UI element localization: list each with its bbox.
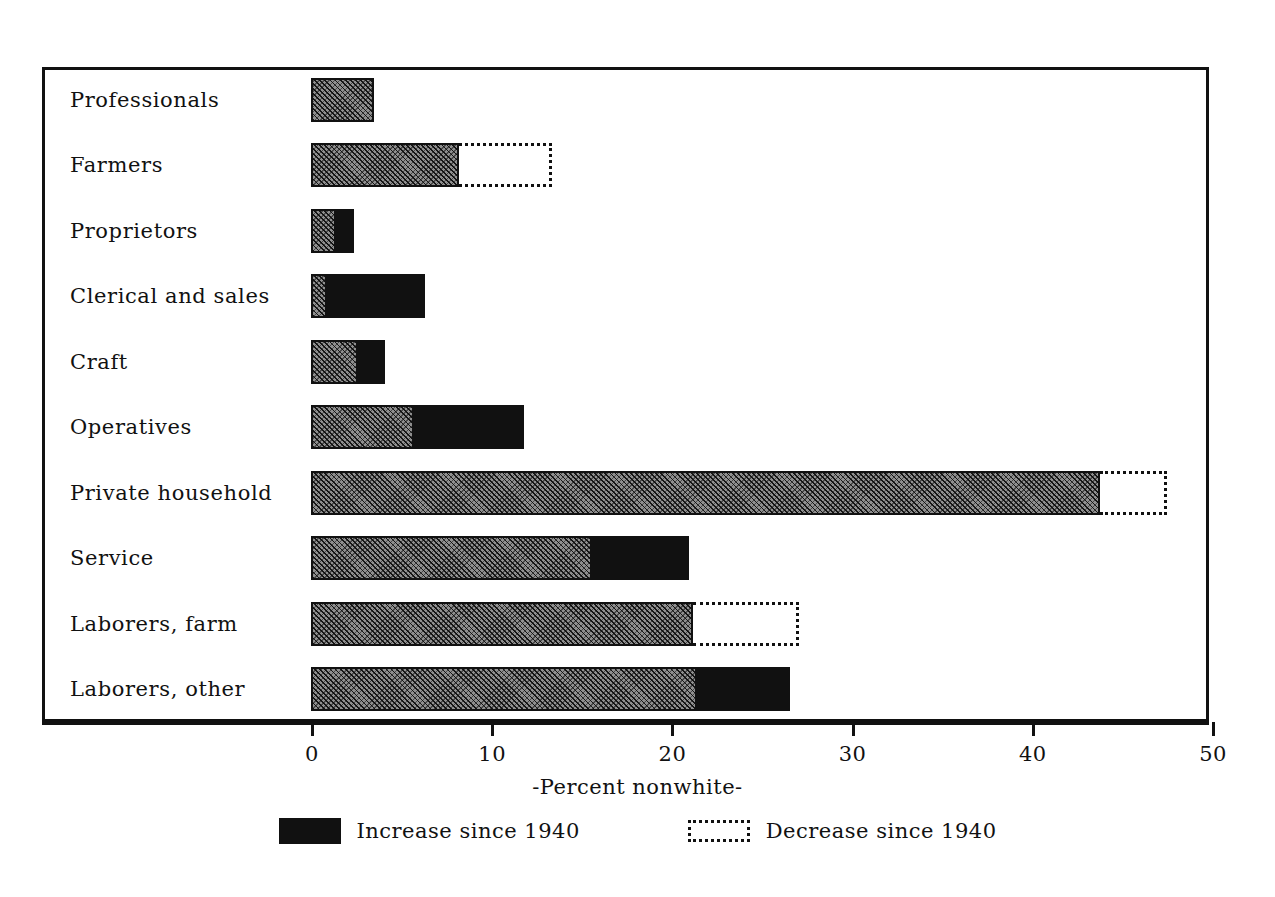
bar-segment-increase <box>336 209 354 253</box>
category-label: Private household <box>70 481 272 505</box>
x-axis-tick-label: 20 <box>659 742 687 766</box>
x-axis-tick-label: 50 <box>1199 742 1227 766</box>
bar-row: Clerical and sales <box>42 264 1209 330</box>
x-axis-tick-label: 10 <box>478 742 506 766</box>
x-axis-tick <box>311 722 314 736</box>
bar-row: Proprietors <box>42 198 1209 264</box>
x-axis: 01020304050 <box>42 722 1209 723</box>
legend-item-increase: Increase since 1940 <box>279 818 580 844</box>
bar-segment-base <box>311 405 414 449</box>
bar-track <box>311 667 1212 711</box>
x-axis-tick-label: 40 <box>1019 742 1047 766</box>
legend-swatch-decrease-icon <box>688 820 750 842</box>
bar-track <box>311 274 1212 318</box>
bar-segment-decrease <box>459 143 553 187</box>
bar-row: Operatives <box>42 395 1209 461</box>
bar-track <box>311 209 1212 253</box>
category-label: Proprietors <box>70 219 198 243</box>
bar-row: Laborers, farm <box>42 591 1209 657</box>
bar-segment-base <box>311 471 1100 515</box>
bar-segment-decrease <box>693 602 799 646</box>
bar-track <box>311 536 1212 580</box>
bar-row: Laborers, other <box>42 657 1209 723</box>
bar-rows-container: ProfessionalsFarmersProprietorsClerical … <box>42 67 1209 722</box>
bar-segment-base <box>311 143 459 187</box>
x-axis-tick <box>1212 722 1215 736</box>
x-axis-tick <box>491 722 494 736</box>
x-axis-tick <box>671 722 674 736</box>
bar-row: Private household <box>42 460 1209 526</box>
category-label: Laborers, other <box>70 677 245 701</box>
bar-row: Service <box>42 526 1209 592</box>
chart-legend: Increase since 1940 Decrease since 1940 <box>0 818 1275 844</box>
category-label: Farmers <box>70 153 163 177</box>
bar-segment-base <box>311 667 697 711</box>
category-label: Clerical and sales <box>70 284 270 308</box>
bar-row: Farmers <box>42 133 1209 199</box>
bar-segment-increase <box>414 405 524 449</box>
bar-segment-increase <box>592 536 689 580</box>
legend-label-increase: Increase since 1940 <box>357 819 580 843</box>
bar-track <box>311 143 1212 187</box>
bar-track <box>311 405 1212 449</box>
category-label: Operatives <box>70 415 192 439</box>
bar-row: Professionals <box>42 67 1209 133</box>
category-label: Professionals <box>70 88 219 112</box>
legend-swatch-increase-icon <box>279 818 341 844</box>
bar-track <box>311 78 1212 122</box>
x-axis-title: -Percent nonwhite- <box>0 775 1275 799</box>
bar-segment-increase <box>697 667 791 711</box>
bar-segment-base <box>311 340 358 384</box>
category-label: Craft <box>70 350 128 374</box>
bar-segment-base <box>311 274 327 318</box>
bar-track <box>311 471 1212 515</box>
x-axis-tick-label: 30 <box>839 742 867 766</box>
legend-item-decrease: Decrease since 1940 <box>688 819 997 843</box>
bar-segment-base <box>311 602 693 646</box>
bar-segment-base <box>311 209 336 253</box>
bar-segment-increase <box>358 340 385 384</box>
bar-segment-base <box>311 536 592 580</box>
bar-track <box>311 340 1212 384</box>
legend-label-decrease: Decrease since 1940 <box>766 819 997 843</box>
x-axis-tick <box>852 722 855 736</box>
category-label: Service <box>70 546 154 570</box>
bar-segment-decrease <box>1100 471 1167 515</box>
bar-segment-base <box>311 78 374 122</box>
category-label: Laborers, farm <box>70 612 238 636</box>
bar-segment-increase <box>327 274 424 318</box>
x-axis-tick-label: 0 <box>305 742 319 766</box>
x-axis-tick <box>1032 722 1035 736</box>
bar-track <box>311 602 1212 646</box>
bar-row: Craft <box>42 329 1209 395</box>
